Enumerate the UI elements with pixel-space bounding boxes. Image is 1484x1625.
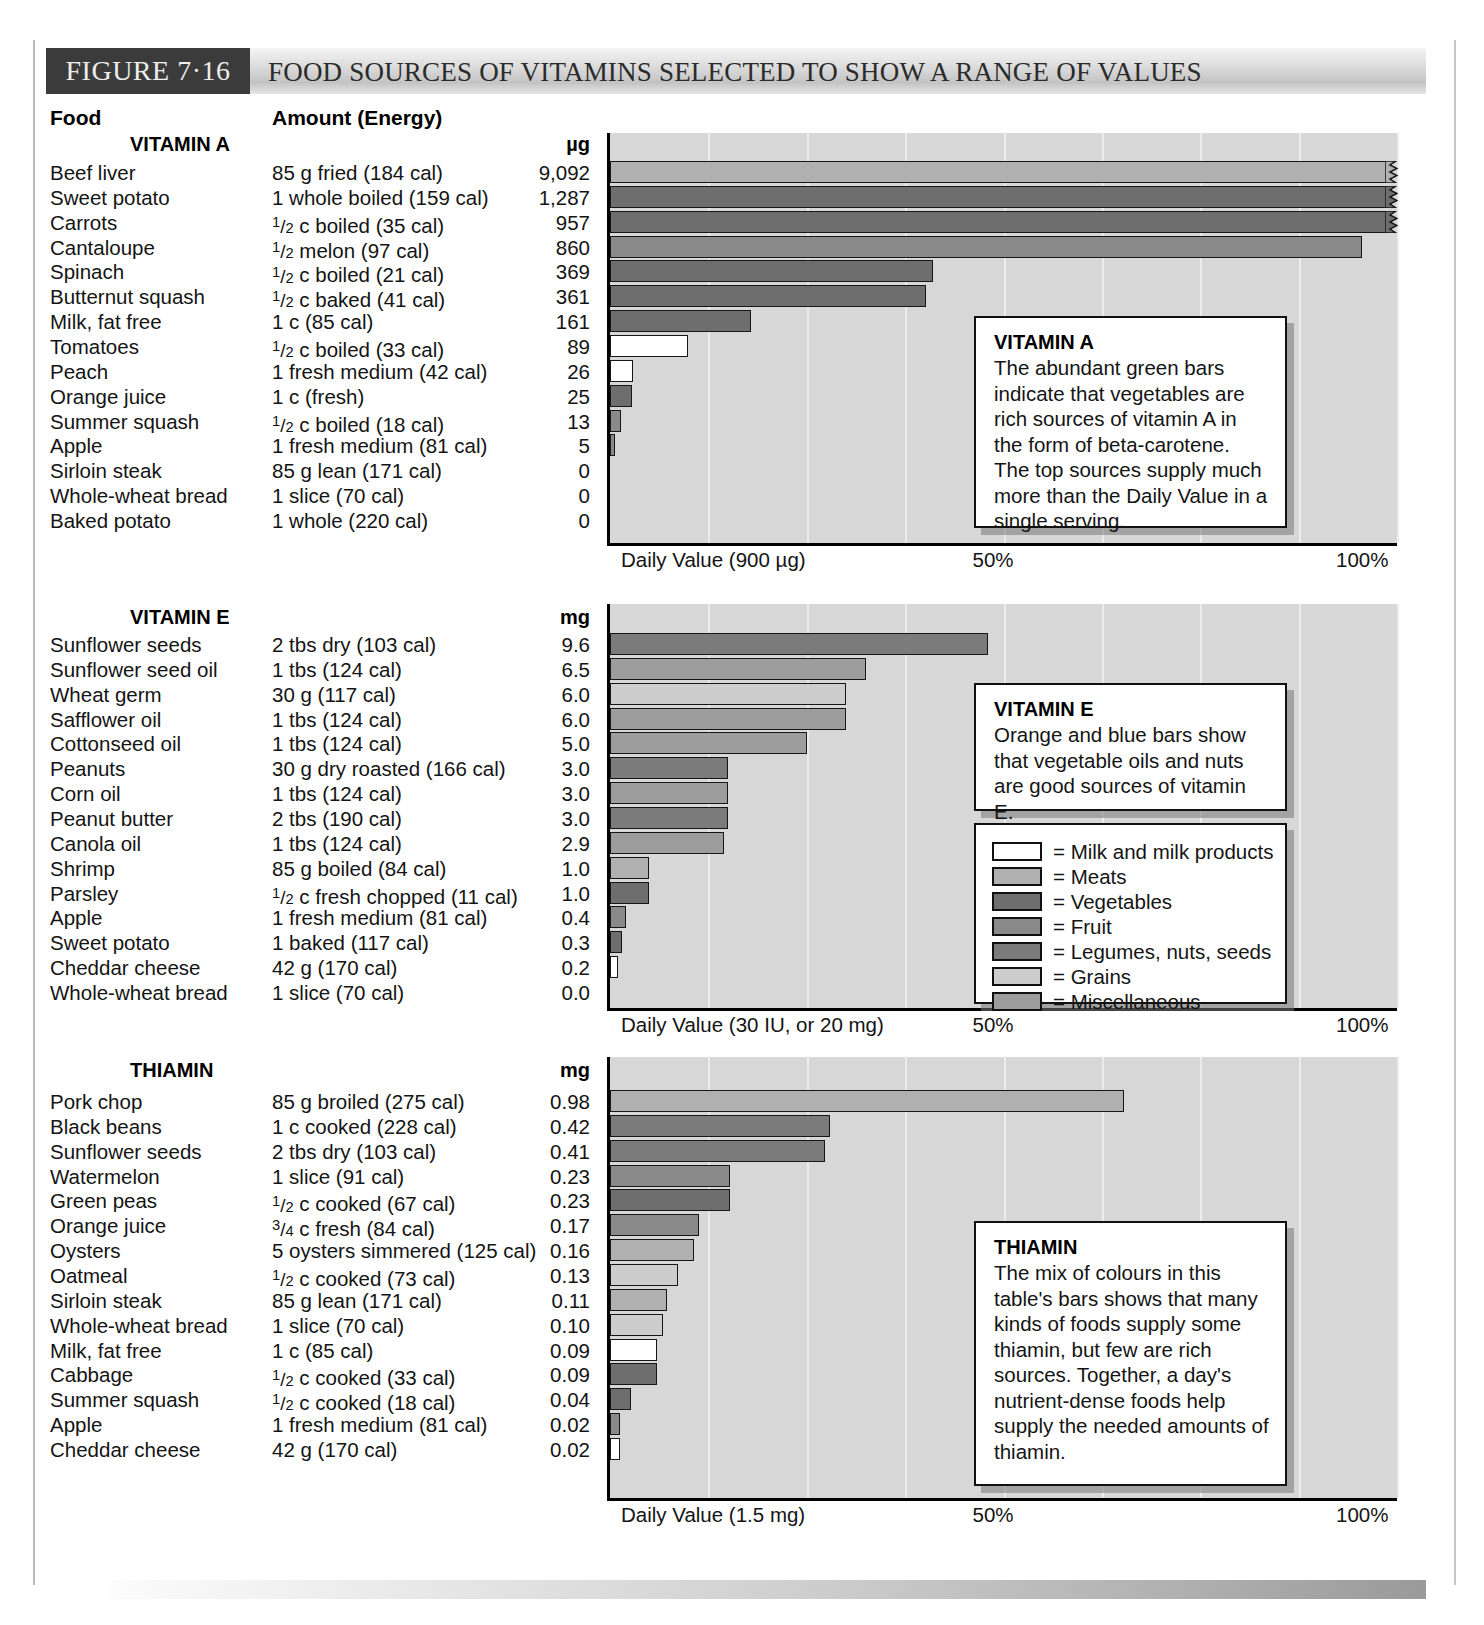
bar bbox=[610, 1264, 678, 1286]
table-row-value: 2.9 bbox=[452, 831, 590, 856]
table-row-food: Peach bbox=[50, 359, 108, 384]
table-row-value: 0.42 bbox=[452, 1114, 590, 1139]
table-row-value: 0.09 bbox=[452, 1362, 590, 1387]
legend-label: = Meats bbox=[1053, 865, 1127, 889]
table-row-food: Canola oil bbox=[50, 831, 141, 856]
bar bbox=[610, 683, 846, 705]
bar bbox=[610, 211, 1385, 233]
figure-title: FOOD SOURCES OF VITAMINS SELECTED TO SHO… bbox=[268, 48, 1202, 94]
table-row-amount: 2 tbs (190 cal) bbox=[272, 806, 402, 831]
axis-tick-100: 100% bbox=[1336, 1503, 1388, 1527]
callout-body: Orange and blue bars show that vegetable… bbox=[994, 722, 1269, 824]
legend: = Milk and milk products= Meats= Vegetab… bbox=[974, 823, 1287, 1004]
table-row-amount: 1 tbs (124 cal) bbox=[272, 831, 402, 856]
table-row-value: 26 bbox=[452, 359, 590, 384]
table-row-value: 89 bbox=[452, 334, 590, 359]
table-row-food: Shrimp bbox=[50, 856, 115, 881]
table-row-value: 0.11 bbox=[452, 1288, 590, 1313]
table-row-value: 0.2 bbox=[452, 955, 590, 980]
table-row-amount: 1 slice (70 cal) bbox=[272, 1313, 404, 1338]
table-row-value: 3.0 bbox=[452, 781, 590, 806]
table-row-food: Baked potato bbox=[50, 508, 171, 533]
callout-title: THIAMIN bbox=[994, 1236, 1269, 1259]
callout-title: VITAMIN A bbox=[994, 331, 1269, 354]
bar bbox=[610, 732, 807, 754]
axis-label-daily-value: Daily Value (900 µg) bbox=[621, 548, 806, 572]
axis-tick-50: 50% bbox=[973, 1503, 1014, 1527]
table-row-amount: 1 tbs (124 cal) bbox=[272, 707, 402, 732]
legend-item: = Miscellaneous bbox=[992, 989, 1269, 1014]
gridline bbox=[1299, 604, 1301, 1008]
table-row-value: 0.17 bbox=[452, 1213, 590, 1238]
table-row-value: 860 bbox=[452, 235, 590, 260]
table-row-food: Oatmeal bbox=[50, 1263, 127, 1288]
bar bbox=[610, 956, 618, 978]
table-row-value: 0 bbox=[452, 483, 590, 508]
bar bbox=[610, 360, 633, 382]
callout-body: The mix of colours in this table's bars … bbox=[994, 1260, 1269, 1464]
table-row-amount: 85 g fried (184 cal) bbox=[272, 160, 443, 185]
table-row-value: 6.0 bbox=[452, 682, 590, 707]
table-row-food: Sirloin steak bbox=[50, 1288, 162, 1313]
table-row-value: 9.6 bbox=[452, 632, 590, 657]
table-row-value: 5 bbox=[452, 433, 590, 458]
nutrient-heading: VITAMIN E bbox=[130, 606, 230, 629]
bar bbox=[610, 1289, 667, 1311]
table-row-food: Cantaloupe bbox=[50, 235, 155, 260]
table-row-value: 6.5 bbox=[452, 657, 590, 682]
table-row-food: Sunflower seeds bbox=[50, 632, 202, 657]
table-row-food: Peanuts bbox=[50, 756, 125, 781]
axis-tick-50: 50% bbox=[973, 1013, 1014, 1037]
table-row-food: Carrots bbox=[50, 210, 117, 235]
table-row-value: 0.02 bbox=[452, 1437, 590, 1462]
table-row-food: Milk, fat free bbox=[50, 1338, 162, 1363]
table-row-value: 957 bbox=[452, 210, 590, 235]
table-row-food: Apple bbox=[50, 433, 102, 458]
table-row-value: 1.0 bbox=[452, 856, 590, 881]
bar bbox=[610, 1363, 657, 1385]
bar bbox=[610, 1339, 657, 1361]
bar bbox=[610, 931, 622, 953]
unit-label: mg bbox=[530, 606, 590, 629]
table-row-food: Orange juice bbox=[50, 1213, 166, 1238]
bar bbox=[610, 285, 926, 307]
legend-item: = Meats bbox=[992, 864, 1269, 889]
table-row-food: Summer squash bbox=[50, 409, 199, 434]
table-row-food: Spinach bbox=[50, 259, 124, 284]
right-rule bbox=[1454, 40, 1456, 1585]
legend-label: = Fruit bbox=[1053, 915, 1112, 939]
axis-tick-50: 50% bbox=[973, 548, 1014, 572]
table-row-food: Summer squash bbox=[50, 1387, 199, 1412]
bar bbox=[610, 1314, 663, 1336]
legend-swatch-meat bbox=[992, 867, 1042, 886]
bar bbox=[610, 832, 724, 854]
table-row-value: 1,287 bbox=[452, 185, 590, 210]
table-row-food: Wheat germ bbox=[50, 682, 162, 707]
table-row-food: Cheddar cheese bbox=[50, 955, 200, 980]
table-row-food: Cheddar cheese bbox=[50, 1437, 200, 1462]
table-row-value: 0.41 bbox=[452, 1139, 590, 1164]
table-row-food: Watermelon bbox=[50, 1164, 160, 1189]
table-row-value: 361 bbox=[452, 284, 590, 309]
table-row-amount: 1 slice (70 cal) bbox=[272, 483, 404, 508]
bar bbox=[610, 1115, 830, 1137]
table-row-food: Cabbage bbox=[50, 1362, 133, 1387]
table-row-food: Parsley bbox=[50, 881, 118, 906]
legend-label: = Legumes, nuts, seeds bbox=[1053, 940, 1271, 964]
bar bbox=[610, 260, 933, 282]
bar bbox=[610, 1413, 620, 1435]
table-row-value: 9,092 bbox=[452, 160, 590, 185]
table-row-value: 0.3 bbox=[452, 930, 590, 955]
table-row-value: 0 bbox=[452, 508, 590, 533]
bar bbox=[610, 757, 728, 779]
table-row-food: Beef liver bbox=[50, 160, 135, 185]
table-row-amount: 42 g (170 cal) bbox=[272, 955, 397, 980]
callout-body: The abundant green bars indicate that ve… bbox=[994, 355, 1269, 534]
table-row-amount: 85 g broiled (275 cal) bbox=[272, 1089, 465, 1114]
bar bbox=[610, 807, 728, 829]
table-row-value: 0.23 bbox=[452, 1164, 590, 1189]
left-rule bbox=[33, 40, 35, 1585]
table-row-value: 1.0 bbox=[452, 881, 590, 906]
legend-item: = Fruit bbox=[992, 914, 1269, 939]
bar bbox=[610, 1140, 825, 1162]
